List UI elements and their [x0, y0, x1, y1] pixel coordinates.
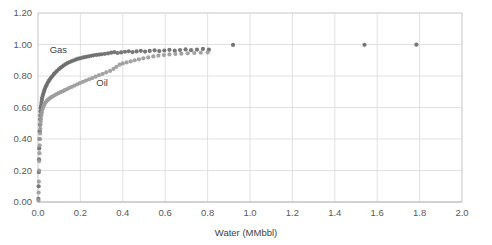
data-point-oil: [37, 190, 41, 194]
data-point-oil: [156, 54, 160, 58]
x-tick-label: 1.2: [286, 207, 299, 218]
annotation-gas: Gas: [50, 44, 68, 55]
data-point-gas: [143, 49, 147, 53]
data-point-oil: [38, 137, 42, 141]
data-point-oil: [38, 143, 42, 147]
x-tick-label: 0.8: [201, 207, 214, 218]
y-tick-label: 0.20: [14, 165, 33, 176]
x-tick-label: 1.6: [371, 207, 384, 218]
data-point-oil: [104, 70, 108, 74]
chart-container: 0.000.200.400.600.801.001.20 0.00.20.40.…: [0, 0, 492, 245]
data-point-gas: [189, 48, 193, 52]
y-tick-label: 1.20: [14, 7, 33, 18]
data-point-oil: [37, 159, 41, 163]
data-point-oil: [206, 50, 210, 54]
data-point-oil: [36, 198, 40, 202]
y-tick-label: 0.00: [14, 196, 33, 207]
data-point-gas: [178, 48, 182, 52]
data-point-oil: [37, 179, 41, 183]
data-point-gas: [153, 48, 157, 52]
x-tick-label: 0.0: [31, 207, 44, 218]
data-point-oil: [38, 131, 42, 135]
data-point-gas: [183, 47, 187, 51]
data-point-oil: [121, 61, 125, 65]
data-point-oil: [141, 56, 145, 60]
x-axis-title: Water (MMbbl): [215, 227, 277, 238]
data-point-oil: [133, 58, 137, 62]
data-point-oil: [151, 54, 155, 58]
data-point-gas: [201, 47, 205, 51]
data-point-oil: [37, 168, 41, 172]
data-point-gas: [362, 43, 366, 47]
y-axis-tick-labels: 0.000.200.400.600.801.001.20: [14, 7, 33, 207]
data-point-gas: [119, 50, 123, 54]
x-tick-label: 1.8: [413, 207, 426, 218]
data-point-gas: [130, 50, 134, 54]
x-tick-label: 0.4: [116, 207, 129, 218]
data-point-gas: [123, 50, 127, 54]
data-point-oil: [192, 51, 196, 55]
y-tick-label: 0.60: [14, 102, 33, 113]
data-point-oil: [167, 52, 171, 56]
data-point-oil: [137, 57, 141, 61]
data-point-gas: [414, 43, 418, 47]
y-tick-label: 0.40: [14, 133, 33, 144]
data-point-gas: [167, 48, 171, 52]
x-axis-tick-labels: 0.00.20.40.60.81.01.21.41.61.82.0: [31, 207, 468, 218]
data-point-gas: [162, 48, 166, 52]
x-tick-label: 2.0: [455, 207, 468, 218]
x-tick-label: 0.6: [159, 207, 172, 218]
data-point-oil: [146, 55, 150, 59]
data-point-oil: [125, 60, 129, 64]
data-point-gas: [115, 51, 119, 55]
data-point-gas: [139, 49, 143, 53]
data-point-gas: [148, 49, 152, 53]
x-tick-label: 1.4: [328, 207, 341, 218]
data-point-gas: [127, 49, 131, 53]
x-tick-label: 1.0: [243, 207, 256, 218]
x-tick-label: 0.2: [74, 207, 87, 218]
data-point-oil: [199, 51, 203, 55]
data-point-oil: [173, 52, 177, 56]
data-point-oil: [162, 53, 166, 57]
annotation-oil: Oil: [96, 77, 108, 88]
data-point-gas: [157, 49, 161, 53]
data-point-oil: [186, 51, 190, 55]
data-point-gas: [231, 43, 235, 47]
y-tick-label: 0.80: [14, 70, 33, 81]
data-point-oil: [38, 127, 42, 131]
data-point-oil: [37, 151, 41, 155]
scatter-chart: 0.000.200.400.600.801.001.20 0.00.20.40.…: [0, 0, 492, 245]
data-point-oil: [179, 52, 183, 56]
data-point-gas: [195, 47, 199, 51]
data-point-gas: [37, 184, 41, 188]
data-point-oil: [101, 72, 105, 76]
data-point-oil: [129, 59, 133, 63]
data-point-gas: [134, 49, 138, 53]
y-tick-label: 1.00: [14, 39, 33, 50]
